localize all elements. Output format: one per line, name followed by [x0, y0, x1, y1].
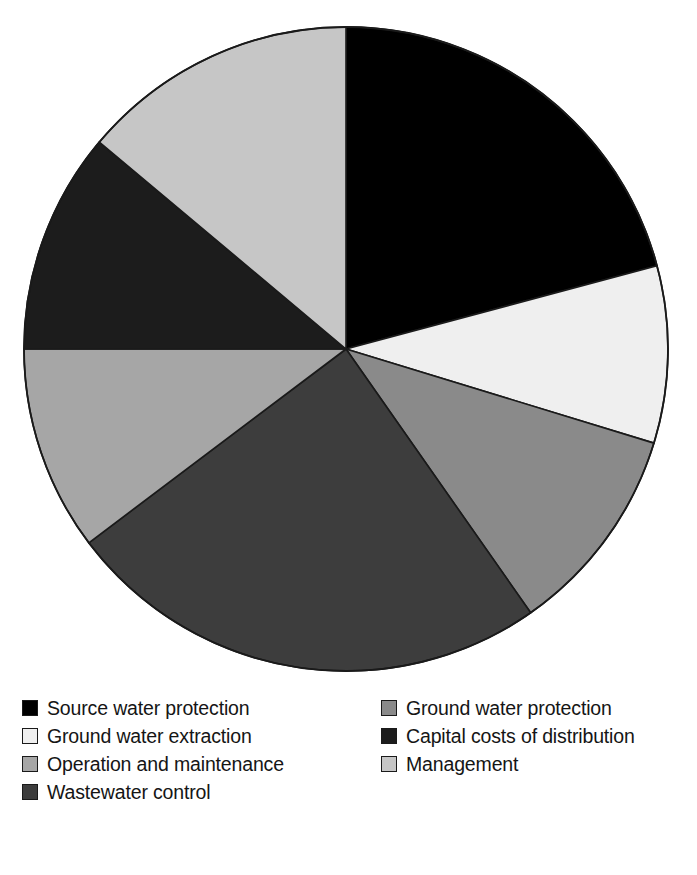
- chart-legend: Source water protectionGround water extr…: [0, 694, 697, 875]
- pie-chart-figure: Source water protectionGround water extr…: [0, 0, 697, 875]
- legend-swatch: [381, 756, 397, 772]
- pie-slice-group: [24, 27, 668, 671]
- legend-item-label: Ground water extraction: [47, 725, 252, 747]
- legend-item-label: Management: [406, 753, 518, 775]
- legend-item-label: Operation and maintenance: [47, 753, 284, 775]
- legend-column-right: Ground water protectionCapital costs of …: [381, 694, 697, 778]
- legend-column-left: Source water protectionGround water extr…: [22, 694, 372, 806]
- pie-chart-area: [0, 0, 697, 690]
- legend-item[interactable]: Source water protection: [22, 694, 372, 722]
- legend-item-label: Ground water protection: [406, 697, 612, 719]
- legend-item[interactable]: Capital costs of distribution: [381, 722, 697, 750]
- legend-item-label: Capital costs of distribution: [406, 725, 635, 747]
- legend-swatch: [381, 700, 397, 716]
- legend-swatch: [22, 784, 38, 800]
- pie-chart-svg: [0, 0, 697, 690]
- legend-item[interactable]: Wastewater control: [22, 778, 372, 806]
- legend-swatch: [22, 728, 38, 744]
- legend-item-label: Wastewater control: [47, 781, 210, 803]
- legend-swatch: [22, 700, 38, 716]
- legend-item-label: Source water protection: [47, 697, 250, 719]
- legend-swatch: [22, 756, 38, 772]
- legend-item[interactable]: Ground water extraction: [22, 722, 372, 750]
- legend-item[interactable]: Ground water protection: [381, 694, 697, 722]
- legend-item[interactable]: Operation and maintenance: [22, 750, 372, 778]
- legend-item[interactable]: Management: [381, 750, 697, 778]
- legend-swatch: [381, 728, 397, 744]
